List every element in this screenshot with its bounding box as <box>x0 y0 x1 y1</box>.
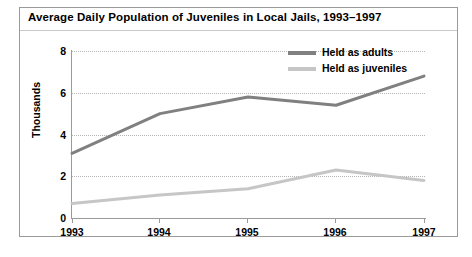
chart-title: Average Daily Population of Juveniles in… <box>28 11 448 27</box>
legend-label-held-as-adults: Held as adults <box>322 46 393 58</box>
y-tick-label-8: 8 <box>44 45 66 57</box>
y-axis-label: Thousands <box>30 70 42 150</box>
x-tick-mark-1995 <box>247 219 248 223</box>
x-tick-label-1993: 1993 <box>50 226 94 238</box>
chart-figure: Average Daily Population of Juveniles in… <box>0 0 472 257</box>
gridline-2 <box>72 176 425 177</box>
x-tick-mark-1996 <box>335 219 336 223</box>
x-tick-label-1997: 1997 <box>402 226 446 238</box>
x-tick-label-1996: 1996 <box>313 226 357 238</box>
legend-swatch-held-as-adults <box>288 51 316 55</box>
x-axis-line <box>71 218 426 219</box>
legend-label-held-as-juveniles: Held as juveniles <box>322 62 407 74</box>
x-tick-mark-1994 <box>159 219 160 223</box>
y-tick-label-2: 2 <box>44 170 66 182</box>
gridline-6 <box>72 93 425 94</box>
x-tick-label-1995: 1995 <box>225 226 269 238</box>
legend-swatch-held-as-juveniles <box>288 67 316 71</box>
y-tick-label-6: 6 <box>44 87 66 99</box>
chart-legend: Held as adults Held as juveniles <box>288 46 428 78</box>
gridline-4 <box>72 135 425 136</box>
x-tick-mark-1997 <box>424 219 425 223</box>
y-tick-label-0: 0 <box>44 212 66 224</box>
y-tick-label-4: 4 <box>44 129 66 141</box>
x-tick-label-1994: 1994 <box>137 226 181 238</box>
title-divider <box>20 30 457 31</box>
x-tick-mark-1993 <box>72 219 73 223</box>
